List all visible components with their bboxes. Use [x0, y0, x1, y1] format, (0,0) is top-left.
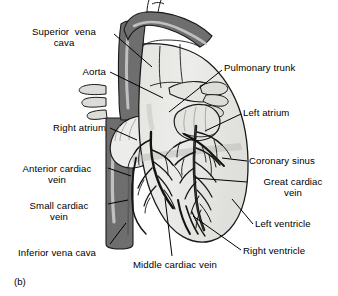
label-anterior-cardiac-vein-line-2: vein — [48, 174, 66, 185]
label-great-cardiac-vein: Great cardiacvein — [249, 176, 337, 198]
label-middle-cardiac-vein-line-1: Middle cardiac vein — [133, 259, 217, 270]
label-anterior-cardiac-vein-line-1: Anterior cardiac — [23, 163, 92, 174]
leader-line-left-atrium — [205, 114, 241, 131]
label-great-cardiac-vein-line-1: Great cardiac — [264, 176, 323, 187]
label-superior-vena-cava: Superior venacava — [14, 26, 114, 48]
leader-line-anterior-cardiac-vein — [108, 168, 131, 176]
label-right-atrium-line-1: Right atrium — [53, 122, 106, 133]
leader-line-left-ventricle — [232, 199, 253, 224]
label-pulmonary-trunk-line-1: Pulmonary trunk — [224, 62, 295, 73]
leader-line-small-cardiac-vein — [108, 200, 128, 204]
label-middle-cardiac-vein: Middle cardiac vein — [133, 259, 253, 270]
leader-line-inferior-vena-cava — [110, 223, 126, 244]
label-left-ventricle: Left ventricle — [255, 218, 338, 229]
label-right-atrium: Right atrium — [12, 122, 106, 133]
leader-line-right-atrium — [110, 128, 137, 140]
label-pulmonary-trunk: Pulmonary trunk — [224, 62, 334, 73]
label-right-ventricle-line-1: Right ventricle — [243, 245, 305, 256]
label-right-ventricle: Right ventricle — [243, 245, 335, 256]
label-left-ventricle-line-1: Left ventricle — [255, 218, 311, 229]
label-great-cardiac-vein-line-2: vein — [284, 187, 302, 198]
leader-line-great-cardiac-vein — [195, 178, 247, 182]
leader-line-pulmonary-trunk — [169, 70, 222, 112]
label-inferior-vena-cava-line-1: Inferior vena cava — [18, 247, 96, 258]
label-aorta: Aorta — [44, 66, 106, 77]
label-small-cardiac-vein: Small cardiacvein — [12, 200, 106, 222]
figure-caption: (b) — [14, 276, 26, 287]
leader-line-middle-cardiac-vein — [165, 198, 172, 256]
label-inferior-vena-cava: Inferior vena cava — [18, 247, 128, 258]
leader-line-coronary-sinus — [222, 158, 247, 161]
leader-line-superior-vena-cava — [114, 34, 152, 67]
label-coronary-sinus: Coronary sinus — [249, 155, 337, 166]
leader-line-right-ventricle — [193, 216, 241, 250]
leader-line-aorta — [110, 72, 163, 98]
heart-anatomy-figure: Superior venacavaAortaRight atriumAnteri… — [0, 0, 338, 296]
label-small-cardiac-vein-line-1: Small cardiac — [30, 200, 89, 211]
label-superior-vena-cava-line-2: cava — [54, 37, 75, 48]
label-anterior-cardiac-vein: Anterior cardiacvein — [8, 163, 106, 185]
label-left-atrium-line-1: Left atrium — [243, 107, 289, 118]
label-left-atrium: Left atrium — [243, 107, 333, 118]
label-aorta-line-1: Aorta — [83, 66, 106, 77]
label-superior-vena-cava-line-1: Superior vena — [32, 26, 96, 37]
label-small-cardiac-vein-line-2: vein — [50, 211, 68, 222]
label-coronary-sinus-line-1: Coronary sinus — [249, 155, 315, 166]
